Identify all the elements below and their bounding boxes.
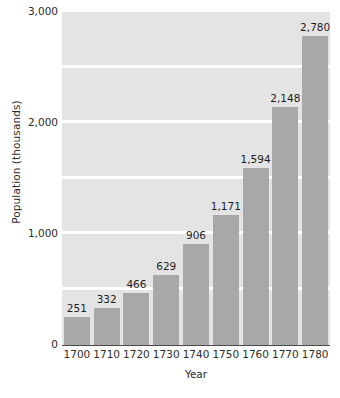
bar-value-label: 251 — [67, 302, 87, 315]
bar-cell: 251 — [62, 12, 92, 345]
bar: 1,171 — [213, 215, 239, 345]
bar: 2,148 — [272, 107, 298, 345]
x-tick-label: 1720 — [122, 348, 152, 360]
bar-value-label: 2,148 — [270, 92, 300, 105]
bar-value-label: 466 — [126, 278, 146, 291]
y-tick-label: 1,000 — [2, 228, 58, 239]
x-axis-line — [62, 345, 330, 346]
bar-cell: 2,148 — [270, 12, 300, 345]
bar-cell: 629 — [151, 12, 181, 345]
bar: 629 — [153, 275, 179, 345]
bar: 2,780 — [302, 36, 328, 345]
bar-cell: 1,171 — [211, 12, 241, 345]
x-axis-title: Year — [62, 368, 330, 380]
bar: 1,594 — [243, 168, 269, 345]
x-tick-label: 1760 — [241, 348, 271, 360]
bar-value-label: 906 — [186, 229, 206, 242]
bar: 332 — [94, 308, 120, 345]
bar-cell: 332 — [92, 12, 122, 345]
bar: 466 — [123, 293, 149, 345]
x-tick-label: 1740 — [181, 348, 211, 360]
y-axis-tick-labels: 01,0002,0003,000 — [0, 0, 58, 398]
bar: 251 — [64, 317, 90, 345]
bar-cell: 1,594 — [241, 12, 271, 345]
x-axis-tick-labels: 170017101720173017401750176017701780 — [62, 348, 330, 360]
bar-value-label: 629 — [156, 260, 176, 273]
bar-value-label: 1,594 — [241, 153, 271, 166]
bar-value-label: 2,780 — [300, 21, 330, 34]
y-tick-label: 3,000 — [2, 6, 58, 17]
y-tick-label: 0 — [2, 339, 58, 350]
plot-area: 2513324666299061,1711,5942,1482,780 — [62, 12, 330, 345]
x-tick-label: 1750 — [211, 348, 241, 360]
x-tick-label: 1770 — [270, 348, 300, 360]
bar-value-label: 1,171 — [211, 200, 241, 213]
bar-series: 2513324666299061,1711,5942,1482,780 — [62, 12, 330, 345]
x-tick-label: 1730 — [151, 348, 181, 360]
bar-value-label: 332 — [97, 293, 117, 306]
x-tick-label: 1700 — [62, 348, 92, 360]
bar-chart: Population (thousands) 01,0002,0003,000 … — [0, 0, 340, 398]
x-tick-label: 1780 — [300, 348, 330, 360]
bar: 906 — [183, 244, 209, 345]
bar-cell: 466 — [122, 12, 152, 345]
bar-cell: 906 — [181, 12, 211, 345]
y-tick-label: 2,000 — [2, 117, 58, 128]
x-tick-label: 1710 — [92, 348, 122, 360]
bar-cell: 2,780 — [300, 12, 330, 345]
